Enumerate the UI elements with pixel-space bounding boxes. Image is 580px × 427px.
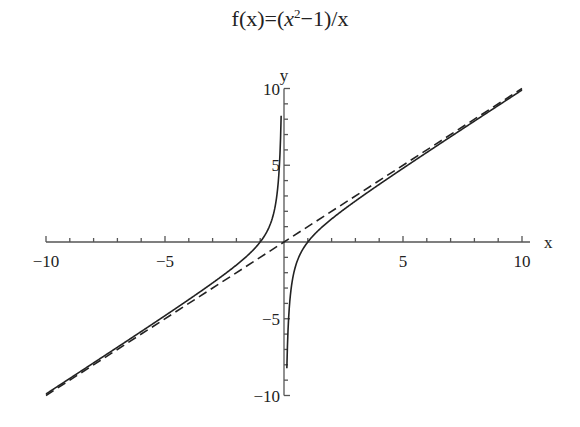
x-tick-label: 5 [399,252,408,271]
x-tick-label: −10 [33,252,60,271]
curve-right-branch [287,90,522,368]
y-tick-label: −10 [253,387,280,406]
y-tick-label: −5 [262,310,280,329]
y-axis-label: y [280,66,289,85]
x-tick-label: −5 [156,252,174,271]
y-tick-label: 10 [263,80,280,99]
x-axis-label: x [544,233,553,252]
plot-area: −10−5510105−5−10xy [0,0,580,427]
x-tick-label: 10 [514,252,531,271]
